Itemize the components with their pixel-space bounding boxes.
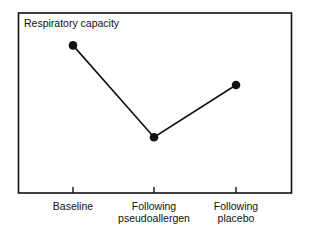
- data-point: [150, 133, 159, 142]
- series-line: [73, 45, 236, 137]
- data-markers: [69, 41, 241, 141]
- data-point: [69, 41, 78, 50]
- plot-frame: [19, 13, 292, 193]
- data-point: [232, 81, 241, 90]
- x-tick-label: Followingplacebo: [186, 200, 286, 224]
- y-axis-label: Respiratory capacity: [24, 17, 119, 29]
- line-chart: [0, 0, 315, 228]
- x-ticks: [73, 187, 236, 193]
